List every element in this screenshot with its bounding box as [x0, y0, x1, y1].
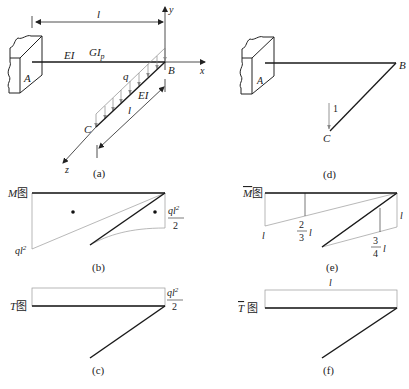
value-3-4-var: l [383, 243, 386, 254]
panel-f-unit-torque-diagram: T 图 l (f) [238, 277, 397, 377]
label-ei-bc: EI [137, 89, 150, 101]
value-ql2-over-2-num: ql2 [168, 204, 180, 216]
value-2-3-var: l [309, 227, 312, 238]
label-point-b: B [168, 64, 175, 76]
label-point-a: A [256, 75, 264, 86]
value-2-3-den: 3 [299, 232, 304, 243]
value-ql2-over-2-num: ql2 [167, 286, 179, 298]
value-ql2-over-2-den: 2 [172, 301, 177, 312]
beam-bc [330, 63, 396, 131]
label-load-q: q [123, 70, 129, 82]
member-bc [90, 306, 165, 358]
label-point-c: C [323, 132, 331, 144]
torque-area-ab [265, 290, 397, 308]
beam-bc [96, 62, 165, 127]
fixed-support-wall-a [8, 36, 42, 93]
caption-c: (c) [92, 364, 105, 377]
caption-a: (a) [93, 167, 106, 180]
caption-e: (e) [326, 261, 339, 274]
dimension-bc-arrow-down [99, 118, 131, 148]
diagram-canvas: A l y x EI GIp q [0, 0, 409, 389]
member-bc [322, 193, 397, 247]
caption-b: (b) [92, 261, 105, 274]
title-t-diagram: T图 [10, 300, 27, 312]
torque-area-ab [32, 288, 165, 306]
panel-c-torque-diagram: T图 ql2 2 (c) [10, 286, 183, 377]
label-unit-load: 1 [333, 103, 338, 114]
label-point-b: B [399, 59, 406, 71]
centroid-dot-bc [153, 210, 157, 214]
value-ql2: ql2 [15, 244, 27, 256]
label-span-l: l [97, 8, 100, 20]
panel-e-unit-moment-diagram: M图 l 2 3 l l 3 4 l (e) [242, 187, 403, 274]
value-l-left: l [262, 230, 265, 241]
value-2-3-num: 2 [299, 219, 304, 230]
label-point-c: C [84, 123, 92, 135]
label-axis-z: z [64, 164, 69, 175]
value-l-top: l [329, 277, 332, 288]
value-3-4-den: 4 [373, 248, 378, 259]
caption-d: (d) [323, 168, 336, 181]
value-ql2-over-2-den: 2 [173, 220, 178, 231]
label-ei-ab: EI [63, 49, 76, 61]
title-tbar-diagram: T 图 [238, 302, 258, 314]
panel-a: A l y x EI GIp q [8, 4, 205, 180]
value-3-4-num: 3 [373, 235, 378, 246]
label-gi-ab: GIp [89, 46, 105, 61]
label-point-a: A [23, 72, 31, 84]
panel-d: A B C 1 (d) [240, 37, 406, 181]
member-bc [322, 308, 397, 358]
title-m-diagram: M图 [7, 187, 28, 199]
caption-f: (f) [323, 364, 334, 377]
label-axis-y: y [168, 4, 174, 15]
member-bc [90, 193, 165, 245]
centroid-dot-ab [71, 210, 75, 214]
moment-area-ab [265, 193, 397, 226]
label-span-bc: l [128, 104, 131, 116]
value-l-right: l [400, 210, 403, 221]
title-mbar-diagram: M图 [242, 187, 263, 199]
label-axis-x: x [199, 65, 205, 76]
panel-b-moment-diagram: M图 ql2 ql2 2 (b) [7, 187, 184, 274]
